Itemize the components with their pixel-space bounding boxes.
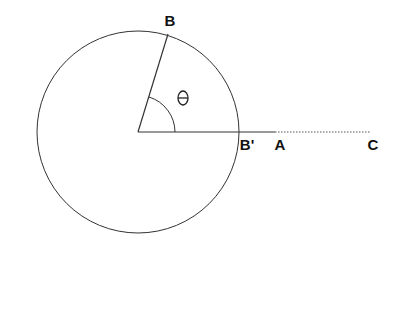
label-B: B <box>165 12 176 29</box>
radius-to-B <box>138 34 168 132</box>
label-B-prime: B' <box>240 136 254 153</box>
theta-symbol <box>178 91 188 105</box>
label-C: C <box>368 136 379 153</box>
geometry-diagram: B B' A C <box>0 0 399 336</box>
label-A: A <box>275 136 286 153</box>
angle-arc <box>149 97 175 132</box>
